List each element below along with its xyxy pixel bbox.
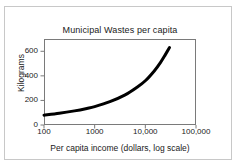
data-series-line bbox=[44, 48, 170, 116]
chart-figure: Municipal Wastes per capita Kilograms 02… bbox=[0, 0, 238, 168]
x-tick-label: 10,000 bbox=[133, 128, 157, 136]
x-tick-label: 100 bbox=[37, 128, 50, 136]
axis-ticks bbox=[41, 51, 197, 128]
x-tick-label: 100,000 bbox=[182, 128, 211, 136]
y-tick-label: 200 bbox=[16, 96, 38, 104]
x-tick-label: 1000 bbox=[86, 128, 104, 136]
x-axis-label: Per capita income (dollars, log scale) bbox=[20, 143, 220, 153]
y-tick-label: 400 bbox=[16, 72, 38, 80]
y-tick-label: 0 bbox=[16, 121, 38, 129]
chart-title: Municipal Wastes per capita bbox=[44, 25, 196, 35]
plot-canvas bbox=[44, 39, 196, 125]
y-tick-label: 600 bbox=[16, 47, 38, 55]
